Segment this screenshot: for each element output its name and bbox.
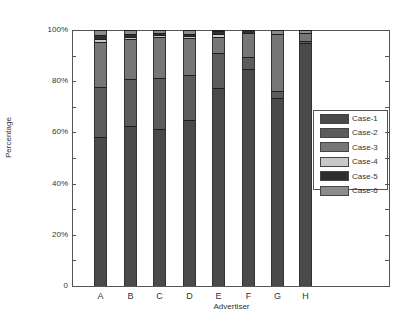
bar-c: [153, 30, 166, 286]
y-tick-mark: [72, 132, 76, 133]
y-tick-mark: [72, 56, 76, 57]
bar-segment-case-4: [94, 39, 107, 42]
bar-segment-case-5: [183, 34, 196, 36]
bar-segment-case-4: [212, 34, 225, 37]
legend-swatch: [320, 186, 349, 196]
y-tick-mark: [72, 286, 76, 287]
y-tick-mark-right: [385, 235, 389, 236]
bar-h: [299, 30, 312, 286]
bar-segment-case-3: [94, 42, 107, 87]
y-tick-label: 60%: [32, 127, 68, 136]
bar-b: [124, 30, 137, 286]
legend-label: Case-6: [352, 186, 378, 195]
legend-label: Case-4: [352, 157, 378, 166]
bar-segment-case-2: [299, 41, 312, 43]
legend-item-case-1: Case-1: [320, 113, 378, 124]
bar-segment-case-1: [153, 129, 166, 286]
bar-segment-case-3: [212, 37, 225, 53]
legend-label: Case-2: [352, 128, 378, 137]
bar-segment-case-5: [124, 34, 137, 37]
y-tick-mark: [72, 30, 76, 31]
y-tick-mark: [72, 260, 76, 261]
x-axis-label: Advertiser: [0, 302, 411, 311]
bar-segment-case-3: [271, 34, 284, 91]
y-tick-mark: [72, 81, 76, 82]
bar-segment-case-3: [242, 33, 255, 57]
legend: Case-1Case-2Case-3Case-4Case-5Case-6: [313, 110, 388, 190]
y-tick-mark-right: [385, 81, 389, 82]
y-tick-mark-right: [385, 56, 389, 57]
y-tick-mark-right: [385, 30, 389, 31]
bar-segment-case-3: [153, 37, 166, 78]
bar-a: [94, 30, 107, 286]
bar-segment-case-3: [124, 39, 137, 79]
x-tick-label: G: [268, 291, 288, 301]
y-tick-mark: [72, 158, 76, 159]
bar-segment-case-6: [183, 30, 196, 34]
bar-g: [271, 30, 284, 286]
bar-segment-case-6: [124, 30, 137, 34]
bar-segment-case-1: [183, 120, 196, 286]
y-tick-label: 80%: [32, 76, 68, 85]
bar-segment-case-6: [94, 30, 107, 35]
bar-segment-case-5: [153, 33, 166, 35]
bar-segment-case-5: [94, 35, 107, 39]
legend-item-case-4: Case-4: [320, 156, 378, 167]
y-tick-mark-right: [385, 209, 389, 210]
bar-segment-case-6: [271, 30, 284, 34]
x-tick-label: E: [209, 291, 229, 301]
y-tick-mark-right: [385, 260, 389, 261]
legend-swatch: [320, 157, 349, 167]
y-tick-mark-right: [385, 132, 389, 133]
y-tick-label: 20%: [32, 230, 68, 239]
legend-label: Case-5: [352, 172, 378, 181]
y-tick-mark: [72, 235, 76, 236]
legend-label: Case-3: [352, 143, 378, 152]
legend-swatch: [320, 128, 349, 138]
y-axis-label: Percentage: [4, 117, 13, 158]
legend-swatch: [320, 114, 349, 124]
bar-d: [183, 30, 196, 286]
bar-segment-case-1: [299, 43, 312, 286]
bar-segment-case-3: [299, 33, 312, 40]
bar-segment-case-2: [94, 87, 107, 137]
y-tick-mark-right: [385, 286, 389, 287]
bar-segment-case-2: [124, 79, 137, 126]
bar-segment-case-1: [124, 126, 137, 286]
bar-segment-case-1: [271, 98, 284, 286]
bar-segment-case-2: [271, 91, 284, 98]
y-tick-label: 0: [32, 281, 68, 290]
bar-segment-case-4: [124, 37, 137, 39]
bar-e: [212, 30, 225, 286]
x-tick-label: H: [296, 291, 316, 301]
legend-item-case-3: Case-3: [320, 142, 378, 153]
bar-segment-case-4: [183, 36, 196, 38]
bar-segment-case-2: [242, 57, 255, 69]
bar-segment-case-2: [153, 78, 166, 129]
bar-segment-case-6: [153, 30, 166, 33]
legend-swatch: [320, 171, 349, 181]
legend-item-case-2: Case-2: [320, 127, 378, 138]
x-tick-label: D: [180, 291, 200, 301]
legend-swatch: [320, 142, 349, 152]
y-tick-mark: [72, 184, 76, 185]
bar-segment-case-6: [212, 30, 225, 31]
x-tick-label: A: [91, 291, 111, 301]
x-tick-label: C: [150, 291, 170, 301]
y-tick-mark-right: [385, 184, 389, 185]
y-tick-label: 100%: [32, 25, 68, 34]
bar-segment-case-2: [183, 75, 196, 120]
legend-label: Case-1: [352, 114, 378, 123]
bar-segment-case-3: [183, 38, 196, 75]
legend-item-case-5: Case-5: [320, 171, 378, 182]
bar-segment-case-5: [212, 31, 225, 34]
y-tick-mark: [72, 209, 76, 210]
bar-segment-case-1: [242, 69, 255, 286]
y-tick-mark-right: [385, 107, 389, 108]
bar-f: [242, 30, 255, 286]
x-tick-label: F: [239, 291, 259, 301]
bar-segment-case-1: [212, 88, 225, 286]
bar-segment-case-1: [94, 137, 107, 286]
bar-segment-case-6: [299, 30, 312, 33]
y-tick-mark: [72, 107, 76, 108]
